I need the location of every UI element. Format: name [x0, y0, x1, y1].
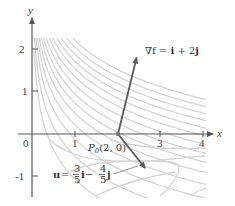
contour-line-4 [34, 0, 217, 187]
contour-line-7 [34, 0, 217, 156]
svg-text:4: 4 [100, 163, 106, 174]
gradient-label-prefix: ∇f = [145, 45, 170, 56]
contour-line-12 [34, 0, 217, 116]
svg-text:3: 3 [74, 163, 80, 174]
svg-text:5: 5 [100, 174, 106, 185]
svg-text:5: 5 [74, 174, 80, 185]
y-tick-label-neg1: -1 [15, 170, 24, 182]
y-tick-label-1: 1 [22, 85, 28, 97]
y-axis-label: y [27, 4, 33, 16]
contour-line-1 [34, 51, 217, 206]
gradient-label: ∇f = i + 2j [145, 45, 199, 56]
x-axis-label: x [216, 127, 222, 139]
svg-text:=: = [61, 169, 69, 180]
point-p0-marker [116, 132, 120, 136]
y-tick-label-2: 2 [19, 43, 25, 55]
contour-lower-4 [190, 188, 206, 196]
svg-text:u: u [53, 169, 60, 180]
gradient-vector-arrow [118, 58, 137, 135]
x-tick-label-3: 3 [157, 137, 163, 149]
svg-text:j: j [106, 169, 111, 180]
x-tick-label-0: 0 [23, 137, 29, 149]
unit-vector-label: u = 3 5 i − 4 5 j [53, 163, 138, 185]
contour-line-10 [34, 0, 217, 131]
contour-plot: x y 0 1 3 4 2 1 -1 ∇f = i + 2j P0(2, 0) … [0, 0, 235, 206]
x-tick-label-4: 4 [199, 137, 205, 149]
x-tick-label-1: 1 [72, 137, 78, 149]
svg-text:−: − [85, 169, 93, 180]
